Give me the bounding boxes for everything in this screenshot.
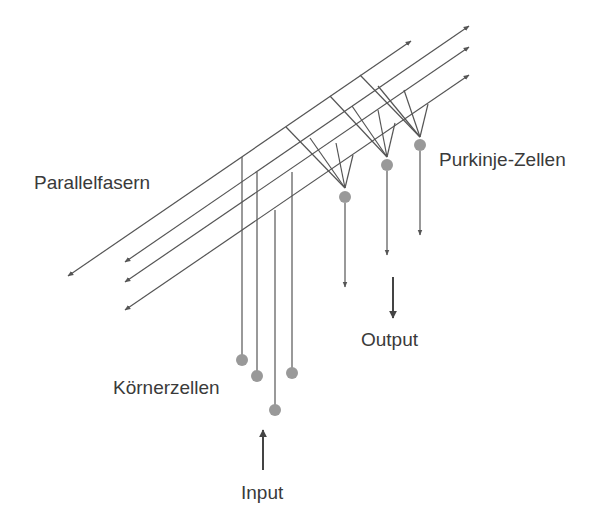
purkinje-dendrite [420, 104, 428, 137]
granule-cells-label: Körnerzellen [113, 378, 220, 397]
parallel-fiber [68, 41, 411, 276]
purkinje-dendrite [286, 127, 345, 188]
cerebellar-circuit-diagram [0, 0, 612, 524]
parallel-fibers-label: Parallelfasern [34, 173, 150, 192]
purkinje-cells-label: Purkinje-Zellen [439, 150, 566, 169]
parallel-fiber [125, 75, 469, 310]
io-arrows [263, 277, 393, 470]
granule-cells [236, 157, 298, 416]
output-label: Output [361, 330, 418, 349]
purkinje-dendrite [360, 75, 420, 137]
granule-cell [251, 370, 263, 382]
purkinje-cell [339, 191, 351, 203]
purkinje-dendrite [330, 96, 387, 157]
purkinje-dendrite [378, 86, 420, 137]
granule-cell [286, 367, 298, 379]
input-label: Input [241, 483, 283, 502]
parallel-fibers [68, 26, 469, 310]
parallel-fiber [125, 47, 469, 282]
purkinje-dendrite [404, 90, 420, 137]
purkinje-cell [414, 139, 426, 151]
purkinje-cells [286, 75, 428, 287]
purkinje-dendrite [345, 155, 353, 188]
granule-cell [236, 354, 248, 366]
purkinje-cell [381, 159, 393, 171]
granule-cell [269, 404, 281, 416]
